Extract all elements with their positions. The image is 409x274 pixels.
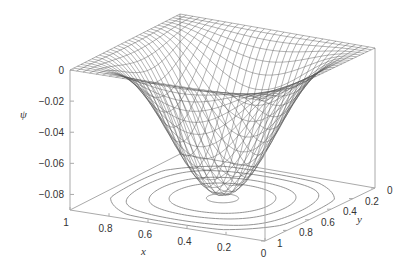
surface-mesh: [70, 14, 375, 195]
svg-text:1: 1: [277, 238, 283, 249]
svg-text:−0.04: −0.04: [39, 127, 65, 138]
svg-text:0.6: 0.6: [138, 229, 152, 240]
svg-text:0: 0: [387, 185, 393, 196]
svg-text:0.6: 0.6: [321, 217, 335, 228]
y-axis-label: y: [356, 213, 362, 225]
svg-text:0.4: 0.4: [343, 206, 357, 217]
svg-text:0.8: 0.8: [299, 227, 313, 238]
surface-plot: 0−0.02−0.04−0.06−0.0810.80.60.40.2000.20…: [0, 0, 409, 274]
svg-text:0.8: 0.8: [99, 223, 113, 234]
z-axis-label: ψ: [20, 108, 27, 120]
svg-text:0: 0: [261, 248, 267, 259]
svg-text:0.4: 0.4: [178, 236, 192, 247]
svg-text:1: 1: [63, 217, 69, 228]
svg-text:−0.08: −0.08: [39, 189, 65, 200]
svg-text:0.2: 0.2: [217, 242, 231, 253]
svg-text:−0.06: −0.06: [39, 158, 65, 169]
svg-text:0: 0: [58, 65, 64, 76]
axis-ticks: 0−0.02−0.04−0.06−0.0810.80.60.40.2000.20…: [39, 65, 393, 259]
x-axis-label: x: [140, 245, 146, 257]
svg-text:0.2: 0.2: [365, 196, 379, 207]
svg-text:−0.02: −0.02: [39, 96, 65, 107]
